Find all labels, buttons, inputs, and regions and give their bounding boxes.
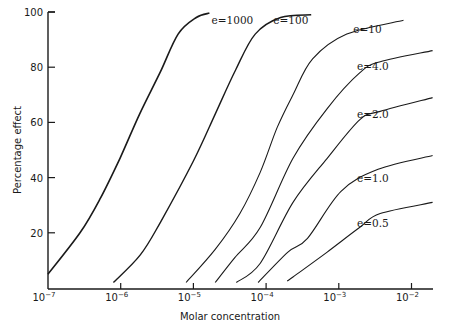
curve-label: e=2.0 <box>357 108 389 120</box>
y-tick-label: 20 <box>30 228 43 239</box>
curve-e-0-5 <box>287 202 432 281</box>
y-tick-label: 60 <box>30 117 43 128</box>
curve-e-4-0 <box>215 51 432 283</box>
curve-label: e=100 <box>273 14 308 26</box>
curves <box>48 13 433 282</box>
x-tick-label: 10−4 <box>251 291 275 303</box>
curve-label: e=10 <box>353 23 381 35</box>
dose-response-chart: 20406080100 10−710−610−510−410−310−2 e=1… <box>0 0 451 330</box>
x-tick-label: 10−2 <box>396 291 419 303</box>
y-axis-title: Percentage effect <box>12 106 23 194</box>
curve-label: e=4.0 <box>357 60 389 72</box>
curve-e-1000 <box>48 13 209 274</box>
y-ticks: 20406080100 <box>24 7 55 239</box>
y-tick-label: 100 <box>24 7 43 18</box>
x-ticks: 10−710−610−510−410−310−2 <box>32 283 419 303</box>
x-axis-title: Molar concentration <box>180 311 280 322</box>
curve-label: e=1.0 <box>357 172 389 184</box>
curve-e-100 <box>113 15 311 283</box>
curve-label: e=0.5 <box>357 217 389 229</box>
x-tick-label: 10−6 <box>105 291 129 303</box>
y-tick-label: 40 <box>30 173 43 184</box>
y-tick-label: 80 <box>30 62 43 73</box>
curve-label: e=1000 <box>212 14 254 26</box>
curve-e-2-0 <box>236 98 432 283</box>
x-tick-label: 10−7 <box>32 291 55 303</box>
x-tick-label: 10−5 <box>178 291 201 303</box>
x-tick-label: 10−3 <box>323 291 346 303</box>
curve-labels: e=1000e=100e=10e=4.0e=2.0e=1.0e=0.5 <box>212 14 389 229</box>
axes <box>48 12 433 289</box>
